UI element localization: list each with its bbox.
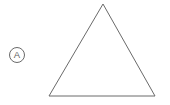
- triangle-shape: [49, 4, 155, 96]
- label-text-a: A: [14, 49, 21, 60]
- figure-canvas: A: [0, 0, 170, 105]
- geometry-figure-svg: A: [0, 0, 170, 105]
